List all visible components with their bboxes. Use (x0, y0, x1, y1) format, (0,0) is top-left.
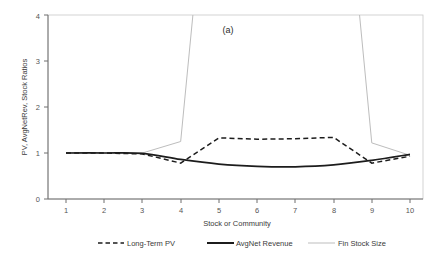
x-tick-label-5: 5 (217, 206, 221, 215)
y-axis-title: PV, AvgNetRev, Stock Ratios (20, 58, 29, 155)
x-tick-label-10: 10 (406, 206, 414, 215)
x-axis-title: Stock or Community (203, 219, 271, 228)
y-tick-label-3: 3 (36, 57, 40, 66)
x-tick-label-2: 2 (102, 206, 106, 215)
legend-label-avgnet-revenue: AvgNet Revenue (236, 239, 293, 248)
series-line-long-term-pv (66, 137, 410, 163)
y-axis-ticks: 0 1 2 3 4 (36, 12, 48, 204)
legend-label-fin-stock-size: Fin Stock Size (338, 239, 386, 248)
x-tick-label-1: 1 (64, 206, 68, 215)
legend-item-long-term-pv[interactable]: Long-Term PV (98, 239, 175, 248)
series-group (66, 15, 410, 167)
chart-svg: 0 1 2 3 4 1 2 3 4 5 6 7 8 9 1 (0, 0, 433, 261)
legend-item-fin-stock-size[interactable]: Fin Stock Size (308, 239, 386, 248)
x-tick-label-3: 3 (140, 206, 144, 215)
y-tick-label-1: 1 (36, 149, 40, 158)
series-line-fin-stock-size (66, 15, 410, 155)
chart-figure: 0 1 2 3 4 1 2 3 4 5 6 7 8 9 1 (0, 0, 433, 261)
x-tick-label-4: 4 (179, 206, 183, 215)
x-tick-label-9: 9 (370, 206, 374, 215)
x-tick-label-7: 7 (293, 206, 297, 215)
legend-item-avgnet-revenue[interactable]: AvgNet Revenue (207, 239, 293, 248)
x-tick-label-8: 8 (332, 206, 336, 215)
chart-legend: Long-Term PV AvgNet Revenue Fin Stock Si… (98, 239, 386, 248)
y-tick-label-4: 4 (36, 12, 40, 21)
y-tick-label-2: 2 (36, 103, 40, 112)
legend-label-long-term-pv: Long-Term PV (127, 239, 175, 248)
x-tick-label-6: 6 (255, 206, 259, 215)
plot-area-frame (48, 15, 423, 199)
panel-label: (a) (223, 25, 234, 35)
y-tick-label-0: 0 (36, 195, 40, 204)
x-axis-ticks: 1 2 3 4 5 6 7 8 9 10 (64, 199, 414, 215)
